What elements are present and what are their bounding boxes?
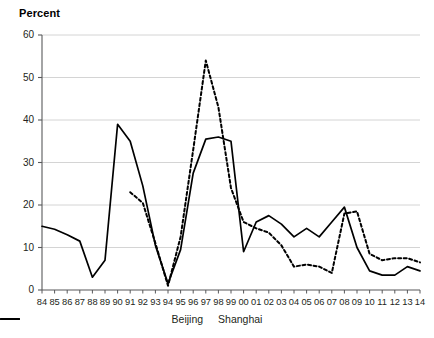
legend-label: Beijing [172,314,204,325]
legend-item-shanghai[interactable]: Shanghai [218,314,262,325]
y-tick-label: 40 [8,115,34,125]
x-tick-label: 14 [411,297,429,307]
y-tick-label: 50 [8,73,34,83]
series-line-shanghai [130,61,420,286]
chart-legend: BeijingShanghai [0,314,434,325]
y-tick-label: 30 [8,158,34,168]
legend-label: Shanghai [218,314,262,325]
line-chart: Percent 0102030405060 848586878889909192… [0,0,434,338]
y-tick-label: 0 [8,285,34,295]
y-tick-label: 20 [8,200,34,210]
y-tick-label: 10 [8,243,34,253]
plot-area [0,0,434,338]
y-tick-label: 60 [8,30,34,40]
dashed-line-swatch-icon [0,314,20,324]
series-line-beijing [42,124,420,283]
legend-item-beijing[interactable]: Beijing [172,314,204,325]
